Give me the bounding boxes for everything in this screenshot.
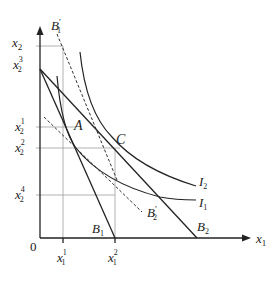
indifference-curve-i2 <box>80 52 196 186</box>
i2-label: I2 <box>198 174 207 191</box>
x-tick-label-x1-2: x21 <box>107 248 118 267</box>
indifference-curve-i1 <box>57 76 196 200</box>
y-axis-arrow-icon <box>37 26 44 35</box>
origin-label: 0 <box>30 239 37 254</box>
x-axis-arrow-icon <box>242 235 251 242</box>
x-axis-label: x1 <box>255 231 266 248</box>
budget-line-b2 <box>40 69 197 238</box>
b2-prime-label: B′2 <box>147 204 157 222</box>
y-tick-label-x2-3: x32 <box>12 55 23 74</box>
b2-label: B2 <box>197 219 209 236</box>
i1-label: I1 <box>198 195 207 212</box>
diagram-canvas: x2 x32 x12 x22 x42 0 x11 x21 x1 A C B′1 … <box>0 0 279 283</box>
y-axis-label: x2 <box>11 35 22 52</box>
point-a-label: A <box>73 118 83 133</box>
point-c-label: C <box>116 132 126 147</box>
budget-line-b1 <box>40 69 115 238</box>
x-tick-label-x1-1: x11 <box>56 248 67 267</box>
b1-label: B1 <box>92 221 104 238</box>
y-tick-label-x2-1: x12 <box>14 117 25 136</box>
y-tick-label-x2-4: x42 <box>14 185 25 204</box>
y-tick-label-x2-2: x22 <box>14 138 25 157</box>
budget-lines <box>40 69 197 238</box>
budget-line-b1-prime <box>57 34 117 180</box>
b1-prime-label: B′1 <box>51 17 61 35</box>
